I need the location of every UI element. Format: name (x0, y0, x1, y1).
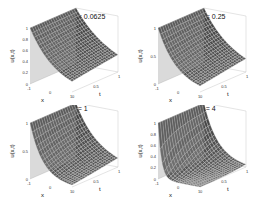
svg-text:0.5: 0.5 (221, 84, 227, 89)
svg-text:u(x,t): u(x,t) (9, 144, 15, 158)
svg-text:0.5: 0.5 (150, 54, 156, 59)
surface-plot-panel: a = 400.20.40.60.81-10100.51xtu(x,t) (128, 105, 255, 209)
svg-text:1: 1 (246, 169, 249, 174)
svg-text:x: x (41, 97, 44, 103)
svg-text:x: x (169, 97, 172, 103)
svg-text:t: t (227, 91, 229, 97)
svg-text:0.8: 0.8 (150, 132, 156, 137)
svg-text:0.5: 0.5 (93, 84, 99, 89)
svg-text:t: t (227, 186, 229, 192)
svg-text:0.4: 0.4 (150, 154, 156, 159)
surface-plot-panel: a = 0.062500.20.40.60.81-10100.51xtu(x,t… (0, 0, 127, 104)
svg-text:0.6: 0.6 (150, 143, 156, 148)
svg-text:0: 0 (72, 94, 75, 99)
surface-plot-panel: a = 100.51-10100.51xtu(x,t) (0, 105, 127, 209)
svg-text:0.5: 0.5 (93, 179, 99, 184)
surface-axes: 00.51-10100.51xtu(x,t) (128, 0, 255, 104)
svg-text:0: 0 (72, 189, 75, 194)
svg-text:u(x,t): u(x,t) (137, 49, 143, 63)
svg-text:0.2: 0.2 (22, 70, 28, 75)
svg-text:0: 0 (177, 185, 180, 190)
svg-text:1: 1 (26, 121, 29, 126)
surface-axes: 00.20.40.60.81-10100.51xtu(x,t) (0, 0, 127, 104)
svg-text:0: 0 (177, 90, 180, 95)
svg-text:0: 0 (200, 94, 203, 99)
svg-text:0.4: 0.4 (22, 59, 28, 64)
svg-text:x: x (41, 192, 44, 198)
svg-text:0.5: 0.5 (221, 179, 227, 184)
svg-text:0.5: 0.5 (22, 149, 28, 154)
svg-text:0: 0 (200, 189, 203, 194)
svg-text:0.2: 0.2 (150, 165, 156, 170)
svg-text:t: t (99, 186, 101, 192)
svg-text:1: 1 (118, 169, 121, 174)
surface-axes: 00.51-10100.51xtu(x,t) (0, 105, 127, 209)
svg-text:1: 1 (118, 74, 121, 79)
svg-text:u(x,t): u(x,t) (9, 49, 15, 63)
svg-text:-1: -1 (27, 181, 31, 186)
svg-text:0.8: 0.8 (22, 37, 28, 42)
svg-text:u(x,t): u(x,t) (137, 144, 143, 158)
svg-text:1: 1 (246, 74, 249, 79)
svg-text:t: t (99, 91, 101, 97)
svg-text:0: 0 (49, 185, 52, 190)
svg-text:-1: -1 (155, 181, 159, 186)
svg-text:1: 1 (26, 26, 29, 31)
svg-text:0: 0 (49, 90, 52, 95)
svg-text:-1: -1 (155, 86, 159, 91)
svg-text:0.6: 0.6 (22, 48, 28, 53)
surface-axes: 00.20.40.60.81-10100.51xtu(x,t) (128, 105, 255, 209)
svg-text:1: 1 (154, 26, 157, 31)
svg-text:x: x (169, 192, 172, 198)
svg-text:1: 1 (154, 121, 157, 126)
surface-plot-panel: a = 0.2500.51-10100.51xtu(x,t) (128, 0, 255, 104)
svg-text:-1: -1 (27, 86, 31, 91)
